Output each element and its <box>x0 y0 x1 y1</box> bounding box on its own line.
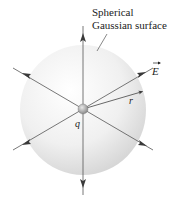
arrow-lower-right-icon <box>138 140 147 146</box>
point-charge <box>78 104 88 114</box>
svg-text:E: E <box>151 65 159 77</box>
surface-label-line2: Gaussian surface <box>92 19 167 31</box>
surface-label-line1: Spherical <box>92 6 134 18</box>
arrow-upper-right-icon <box>137 72 146 78</box>
gauss-diagram: Spherical Gaussian surface E r q <box>0 0 180 211</box>
field-label: E <box>151 62 161 78</box>
charge-label: q <box>75 118 80 129</box>
radius-label: r <box>129 95 133 106</box>
